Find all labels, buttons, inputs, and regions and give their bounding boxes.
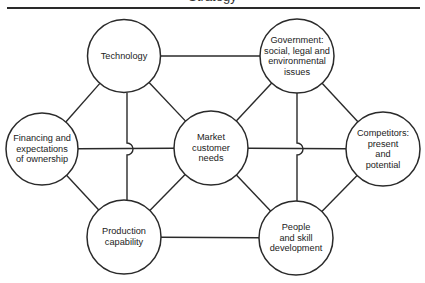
- edge-technology-production: [127, 92, 133, 200]
- node-label-government: Government:social, legal andenvironmenta…: [260, 35, 334, 77]
- edge-financing-production: [67, 175, 99, 210]
- edge-financing-market: [78, 148, 174, 149]
- edge-government-people: [297, 93, 303, 201]
- edge-market-people: [236, 175, 270, 211]
- node-label-financing: Financing andexpectationsof ownership: [5, 133, 79, 165]
- edge-technology-financing: [66, 83, 100, 122]
- node-label-production: Productioncapability: [87, 226, 161, 247]
- node-label-market: Marketcustomerneeds: [174, 132, 248, 164]
- edge-government-market: [236, 83, 271, 121]
- edge-market-production: [150, 174, 185, 210]
- edge-market-competitors: [248, 148, 346, 149]
- edge-government-competitors: [322, 83, 358, 122]
- node-label-people: Peopleand skilldevelopment: [259, 222, 333, 254]
- node-label-competitors: Competitors:presentandpotential: [346, 128, 420, 170]
- edge-production-people: [161, 237, 259, 238]
- node-label-technology: Technology: [87, 51, 161, 62]
- edge-technology-market: [149, 83, 185, 122]
- edge-competitors-people: [322, 175, 357, 211]
